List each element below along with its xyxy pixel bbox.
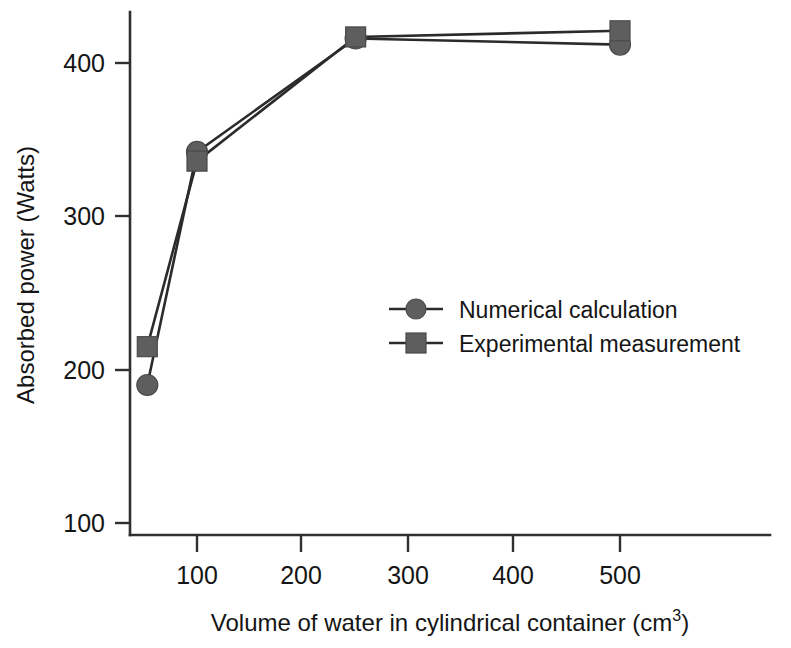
x-axis-title-superscript: 3 — [672, 607, 681, 624]
data-point-square — [187, 151, 207, 171]
data-point-square — [346, 27, 366, 47]
y-axis-ticks — [115, 63, 130, 523]
x-tick-label-100: 100 — [176, 561, 218, 589]
x-axis-title-main: Volume of water in cylindrical container… — [211, 609, 673, 636]
x-tick-label-200: 200 — [280, 561, 322, 589]
legend-marker-circle-icon — [406, 299, 426, 319]
chart-figure: 400 300 200 100 100 200 300 400 500 Abso… — [0, 0, 791, 648]
legend-label-experimental: Experimental measurement — [459, 331, 741, 357]
y-tick-label-300: 300 — [63, 202, 105, 230]
x-tick-label-500: 500 — [599, 561, 641, 589]
y-tick-label-400: 400 — [63, 49, 105, 77]
data-point-circle — [137, 375, 158, 396]
y-axis-title: Absorbed power (Watts) — [12, 146, 39, 404]
x-tick-label-300: 300 — [387, 561, 429, 589]
data-point-square — [137, 337, 157, 357]
legend-marker-square-icon — [406, 333, 426, 353]
x-axis-title-tail: ) — [681, 609, 689, 636]
chart-legend: Numerical calculation Experimental measu… — [389, 297, 741, 357]
legend-item-numerical: Numerical calculation — [389, 297, 678, 323]
x-axis-ticks — [197, 535, 620, 552]
data-point-square — [610, 21, 630, 41]
legend-item-experimental: Experimental measurement — [389, 331, 741, 357]
y-tick-label-100: 100 — [63, 509, 105, 537]
line-chart: 400 300 200 100 100 200 300 400 500 Abso… — [0, 0, 791, 648]
y-tick-label-200: 200 — [63, 356, 105, 384]
x-axis-title: Volume of water in cylindrical container… — [211, 607, 689, 636]
x-tick-label-400: 400 — [492, 561, 534, 589]
legend-label-numerical: Numerical calculation — [459, 297, 678, 323]
